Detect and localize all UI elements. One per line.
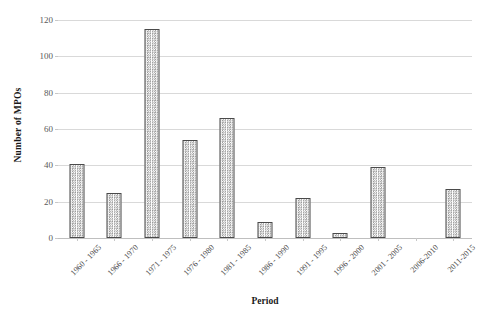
bar-slot bbox=[434, 20, 472, 238]
bar[interactable] bbox=[370, 167, 385, 238]
x-tick-label-slot: 2011-2015 bbox=[434, 241, 472, 293]
y-tick-label: 40 bbox=[44, 160, 53, 170]
x-tick-label-slot: 1976 - 1980 bbox=[171, 241, 209, 293]
plot-area: 020406080100120 bbox=[58, 20, 472, 238]
bars-layer bbox=[58, 20, 472, 238]
bar-slot bbox=[96, 20, 134, 238]
bar[interactable] bbox=[257, 222, 272, 238]
y-tick-label: 80 bbox=[44, 88, 53, 98]
bar-slot bbox=[209, 20, 247, 238]
y-tick-label: 20 bbox=[44, 197, 53, 207]
x-tick-label-slot: 2001 - 2005 bbox=[359, 241, 397, 293]
x-tick-label-slot: 1960 - 1965 bbox=[58, 241, 96, 293]
x-tick-label-slot: 1966 - 1970 bbox=[96, 241, 134, 293]
x-tick-label-slot: 1996 - 2000 bbox=[321, 241, 359, 293]
bar-slot bbox=[359, 20, 397, 238]
y-axis-title-label: Number of MPOs bbox=[13, 88, 23, 163]
x-tick-label-slot: 1986 - 1990 bbox=[246, 241, 284, 293]
bar[interactable] bbox=[107, 193, 122, 238]
y-tick-mark bbox=[55, 238, 58, 239]
bar-slot bbox=[397, 20, 435, 238]
bar[interactable] bbox=[182, 140, 197, 238]
bar-slot bbox=[171, 20, 209, 238]
bar[interactable] bbox=[446, 189, 461, 238]
y-axis-title: Number of MPOs bbox=[0, 0, 36, 250]
bar[interactable] bbox=[220, 118, 235, 238]
x-tick-label-slot: 1981 - 1985 bbox=[209, 241, 247, 293]
x-tick-label-slot: 2006-2010 bbox=[397, 241, 435, 293]
bar-slot bbox=[246, 20, 284, 238]
y-tick-label: 60 bbox=[44, 124, 53, 134]
y-tick-label: 120 bbox=[40, 15, 54, 25]
bar[interactable] bbox=[69, 164, 84, 238]
bar-slot bbox=[284, 20, 322, 238]
y-tick-label: 100 bbox=[40, 51, 54, 61]
bar-slot bbox=[58, 20, 96, 238]
x-axis-ticks: 1960 - 19651966 - 19701971 - 19751976 - … bbox=[58, 241, 472, 293]
y-tick-label: 0 bbox=[49, 233, 54, 243]
bar[interactable] bbox=[145, 29, 160, 238]
bar-chart: Number of MPOs 020406080100120 1960 - 19… bbox=[0, 0, 496, 323]
bar[interactable] bbox=[295, 198, 310, 238]
bar-slot bbox=[321, 20, 359, 238]
x-tick-label: 2011-2015 bbox=[446, 243, 477, 274]
x-axis-title: Period bbox=[58, 296, 472, 306]
x-tick-label-slot: 1971 - 1975 bbox=[133, 241, 171, 293]
x-tick-label-slot: 1991 - 1995 bbox=[284, 241, 322, 293]
bar-slot bbox=[133, 20, 171, 238]
